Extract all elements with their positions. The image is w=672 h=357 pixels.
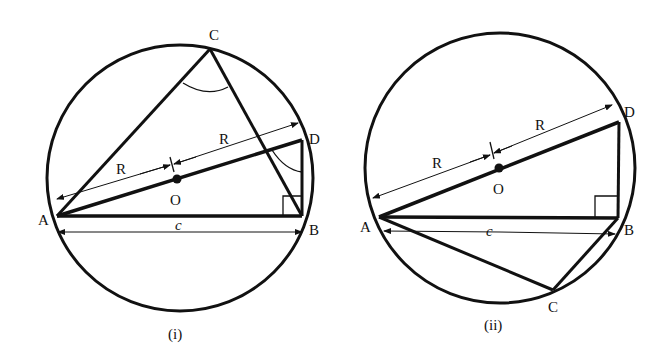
- label-C: C: [209, 27, 219, 43]
- side-AB: [379, 217, 618, 218]
- label-R2: R: [219, 131, 229, 147]
- radius-dimension-1b: [470, 155, 490, 162]
- label-B: B: [624, 222, 634, 238]
- side-CB: [553, 218, 618, 290]
- label-c: c: [175, 217, 182, 233]
- label-A: A: [38, 212, 49, 228]
- label-D: D: [624, 104, 635, 120]
- label-c: c: [486, 223, 493, 239]
- right-angle-mark: [595, 196, 618, 218]
- label-A: A: [360, 219, 371, 235]
- label-R1: R: [432, 155, 442, 171]
- diagram-canvas: C A B D O R R c (i) A B C D O R R c (ii): [0, 0, 672, 357]
- radius-dimension-2b: [174, 157, 196, 164]
- label-B: B: [309, 222, 319, 238]
- center-point-O: [495, 164, 504, 173]
- radius-dimension-1b: [140, 165, 170, 174]
- label-D: D: [309, 131, 320, 147]
- caption-i: (i): [168, 326, 182, 343]
- label-O: O: [493, 181, 504, 197]
- tick-mark: [170, 157, 174, 172]
- caption-ii: (ii): [484, 317, 502, 334]
- tick-mark: [490, 142, 494, 159]
- label-R1: R: [116, 161, 126, 177]
- label-R2: R: [535, 117, 545, 133]
- radius-dimension-2b: [494, 146, 512, 153]
- center-point-O: [173, 175, 182, 184]
- figure-i: C A B D O R R c (i): [38, 27, 320, 343]
- label-C: C: [548, 299, 558, 315]
- label-O: O: [170, 192, 181, 208]
- segment-DB: [618, 122, 619, 218]
- side-AC: [379, 217, 553, 290]
- chord-dimension: [384, 231, 500, 232]
- chord-dimension-b: [500, 232, 615, 234]
- angle-arc-C: [183, 83, 228, 92]
- figure-ii: A B C D O R R c (ii): [360, 33, 635, 334]
